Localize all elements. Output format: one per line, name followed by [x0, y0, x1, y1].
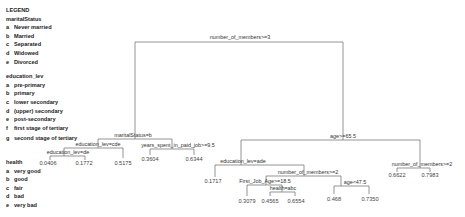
svg-text:education_lev=ade: education_lev=ade [220, 158, 265, 164]
leaf-value: 0.3604 [141, 156, 158, 162]
leaf-value: 0.5175 [114, 160, 131, 166]
svg-text:number_of_members>=3: number_of_members>=3 [210, 34, 271, 40]
split-health-abc: health=abc [270, 185, 297, 196]
decision-tree: number_of_members>=3 maritalStatus=b edu… [0, 0, 465, 217]
split-members-2-right: number_of_members>=2 [392, 161, 453, 172]
svg-text:maritalStatus=b: maritalStatus=b [114, 132, 152, 138]
svg-text:education_lev=de: education_lev=de [47, 149, 89, 155]
leaf-value: 0.7350 [361, 196, 378, 202]
split-education-de: education_lev=de [47, 149, 89, 160]
svg-text:health=abc: health=abc [270, 185, 297, 191]
leaf-value: 0.0406 [39, 160, 56, 166]
leaf-value: 0.6344 [185, 156, 202, 162]
svg-text:number_of_members>=2: number_of_members>=2 [278, 169, 339, 175]
svg-text:age>=65.5: age>=65.5 [330, 133, 356, 139]
leaf-value: 0.468 [327, 196, 341, 202]
leaf-value: 0.6622 [388, 172, 405, 178]
svg-text:First_Job_Age>=18.5: First_Job_Age>=18.5 [239, 178, 291, 184]
split-root: number_of_members>=3 [135, 34, 343, 140]
svg-text:age<47.5: age<47.5 [344, 179, 367, 185]
svg-text:number_of_members>=2: number_of_members>=2 [392, 161, 453, 167]
leaf-value: 0.6554 [287, 198, 304, 204]
svg-text:years_spent_in_paid_job>=9.5: years_spent_in_paid_job>=9.5 [141, 142, 215, 148]
split-age-47: age<47.5 [334, 179, 369, 194]
leaf-value: 0.3079 [238, 198, 255, 204]
split-years-paid-job: years_spent_in_paid_job>=9.5 [141, 142, 215, 155]
leaf-value: 0.1717 [204, 178, 221, 184]
leaf-value: 0.4565 [261, 198, 278, 204]
leaf-value: 0.7983 [421, 172, 438, 178]
leaf-value: 0.1772 [75, 160, 92, 166]
svg-text:education_lev=cde: education_lev=cde [75, 141, 120, 147]
